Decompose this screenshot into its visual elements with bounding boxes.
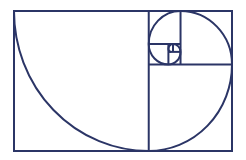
golden-spiral-svg [14,11,232,151]
outer-rectangle [14,11,232,151]
golden-spiral-diagram [14,11,232,151]
golden-spiral-curve [14,11,232,151]
